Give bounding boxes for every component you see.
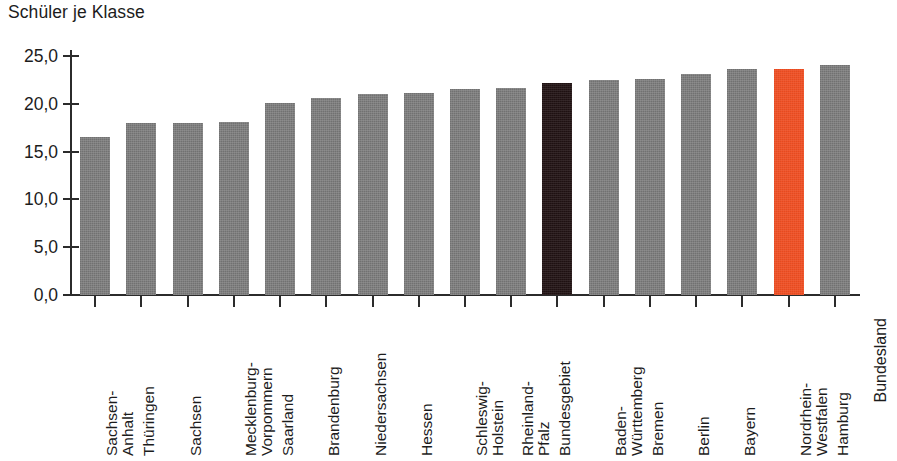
x-axis-tick bbox=[140, 296, 142, 307]
x-axis-category-label: Schleswig-Holstein bbox=[474, 312, 507, 456]
x-axis-tick bbox=[788, 296, 790, 307]
category-label-line-1: Hamburg bbox=[834, 392, 851, 456]
category-label-line-2: Württemberg bbox=[629, 312, 645, 456]
category-label-line-2: Vorpommern bbox=[259, 312, 275, 456]
bar bbox=[496, 88, 526, 295]
category-label-line-1: Sachsen- bbox=[103, 391, 120, 456]
x-axis-category-label: Bundesgebiet bbox=[557, 312, 573, 456]
x-axis-category-label: Sachsen-Anhalt bbox=[104, 312, 137, 456]
bar bbox=[774, 69, 804, 295]
bar bbox=[404, 93, 434, 295]
category-label-line-1: Bremen bbox=[649, 402, 666, 456]
x-axis-category-label: Bayern bbox=[742, 312, 758, 456]
x-axis-tick bbox=[464, 296, 466, 307]
x-axis-category-label: Sachsen bbox=[188, 312, 204, 456]
bar bbox=[681, 74, 711, 295]
bar bbox=[80, 137, 110, 295]
category-label-line-2: Holstein bbox=[490, 312, 506, 456]
category-label-line-1: Saarland bbox=[279, 394, 296, 456]
x-axis-tick bbox=[94, 296, 96, 307]
x-axis-tick bbox=[418, 296, 420, 307]
x-axis-category-label: Saarland bbox=[280, 312, 296, 456]
bar bbox=[727, 69, 757, 295]
bar bbox=[820, 65, 850, 295]
x-axis-tick bbox=[510, 296, 512, 307]
category-label-line-1: Berlin bbox=[695, 416, 712, 456]
x-axis-tick bbox=[279, 296, 281, 307]
x-axis-tick bbox=[325, 296, 327, 307]
category-label-line-1: Mecklenburg- bbox=[242, 362, 259, 456]
y-axis-tick bbox=[63, 294, 79, 296]
category-label-line-1: Rheinland- bbox=[519, 381, 536, 456]
y-axis-tick bbox=[63, 198, 79, 200]
x-axis-tick bbox=[556, 296, 558, 307]
category-label-line-2: Pfalz bbox=[537, 312, 553, 456]
x-axis-category-label: Nordrhein-Westfalen bbox=[798, 312, 831, 456]
y-axis-tick-label: 25,0 bbox=[0, 46, 58, 67]
x-axis-category-label: Thüringen bbox=[141, 312, 157, 456]
y-axis-tick bbox=[63, 246, 79, 248]
x-axis-tick bbox=[649, 296, 651, 307]
x-axis-tick bbox=[695, 296, 697, 307]
x-axis-category-label: Hamburg bbox=[835, 312, 851, 456]
y-axis-tick bbox=[63, 151, 79, 153]
x-axis-tick bbox=[741, 296, 743, 307]
y-axis-tick-label: 10,0 bbox=[0, 189, 58, 210]
category-label-line-1: Nordrhein- bbox=[797, 383, 814, 456]
bar bbox=[635, 79, 665, 295]
x-axis-category-label: Niedersachsen bbox=[373, 312, 389, 456]
x-axis-category-label: Brandenburg bbox=[326, 312, 342, 456]
plot-area: 0,05,010,015,020,025,0 Sachsen-AnhaltThü… bbox=[0, 0, 897, 461]
x-axis-category-label: Hessen bbox=[419, 312, 435, 456]
x-axis-category-label: Rheinland-Pfalz bbox=[520, 312, 553, 456]
y-axis-tick-label: 15,0 bbox=[0, 141, 58, 162]
category-label-line-1: Sachsen bbox=[187, 396, 204, 456]
y-axis-tick bbox=[63, 55, 79, 57]
y-axis-tick-label: 20,0 bbox=[0, 93, 58, 114]
category-label-line-1: Brandenburg bbox=[325, 366, 342, 456]
x-axis-title: Bundesland bbox=[872, 318, 890, 403]
category-label-line-1: Bundesgebiet bbox=[556, 361, 573, 456]
category-label-line-1: Schleswig- bbox=[473, 381, 490, 456]
category-label-line-1: Thüringen bbox=[140, 386, 157, 456]
y-axis-tick bbox=[63, 103, 79, 105]
y-axis-tick-label: 5,0 bbox=[0, 237, 58, 258]
bar bbox=[589, 80, 619, 295]
bar bbox=[219, 122, 249, 295]
bar bbox=[450, 89, 480, 295]
bar bbox=[173, 123, 203, 295]
x-axis-category-label: Berlin bbox=[696, 312, 712, 456]
x-axis-tick bbox=[187, 296, 189, 307]
bar bbox=[542, 83, 572, 295]
y-axis-tick-label: 0,0 bbox=[0, 285, 58, 306]
category-label-line-1: Baden- bbox=[612, 406, 629, 456]
category-label-line-2: Anhalt bbox=[121, 312, 137, 456]
category-label-line-1: Niedersachsen bbox=[372, 353, 389, 456]
x-axis-tick bbox=[233, 296, 235, 307]
category-label-line-1: Bayern bbox=[741, 407, 758, 456]
category-label-line-2: Westfalen bbox=[814, 312, 830, 456]
y-axis-line bbox=[70, 50, 72, 296]
x-axis-category-label: Baden-Württemberg bbox=[613, 312, 646, 456]
x-axis-category-label: Mecklenburg-Vorpommern bbox=[243, 312, 276, 456]
x-axis-tick bbox=[603, 296, 605, 307]
bar bbox=[126, 123, 156, 295]
chart-page: Schüler je Klasse 0,05,010,015,020,025,0… bbox=[0, 0, 897, 461]
bar bbox=[358, 94, 388, 295]
category-label-line-1: Hessen bbox=[418, 403, 435, 456]
bar bbox=[265, 103, 295, 295]
x-axis-category-label: Bremen bbox=[650, 312, 666, 456]
x-axis-tick bbox=[834, 296, 836, 307]
x-axis-tick bbox=[372, 296, 374, 307]
bar bbox=[311, 98, 341, 295]
